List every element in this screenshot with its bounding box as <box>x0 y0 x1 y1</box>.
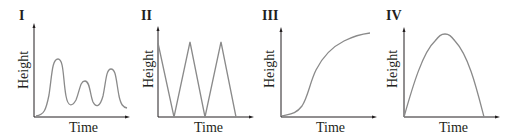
panel-i: I Height Time <box>0 0 130 137</box>
curve <box>158 42 236 117</box>
plot-area <box>250 0 380 137</box>
plot-area <box>0 0 130 137</box>
plot-area <box>125 0 255 137</box>
y-axis-arrow-icon <box>33 23 36 28</box>
panel-ii: II Height Time <box>125 0 255 137</box>
y-axis-arrow-icon <box>403 27 406 32</box>
panel-iv: IV Height Time <box>375 0 509 137</box>
curve <box>36 59 127 116</box>
y-axis-arrow-icon <box>157 26 160 31</box>
y-axis-arrow-icon <box>280 27 283 32</box>
curve <box>404 34 484 117</box>
panel-iii: III Height Time <box>250 0 380 137</box>
x-axis-arrow-icon <box>495 116 500 119</box>
plot-area <box>375 0 509 137</box>
curve <box>282 33 370 116</box>
